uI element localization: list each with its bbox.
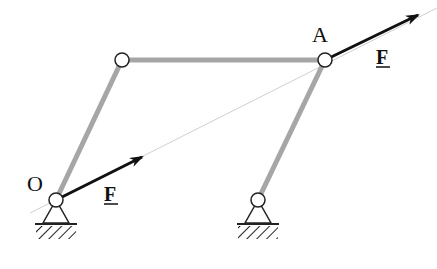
label-o: O [27, 171, 43, 196]
link-o-b [56, 60, 122, 200]
force-arrow-a [325, 15, 418, 60]
joint-b [115, 53, 129, 67]
force-arrow-o [56, 157, 142, 200]
linkage-diagram: O A F F [0, 0, 437, 269]
label-force-a: F [376, 46, 388, 68]
joint-o [49, 193, 63, 207]
joint-a [318, 53, 332, 67]
label-a: A [312, 22, 328, 47]
label-force-o: F [104, 183, 116, 205]
joint-c [251, 193, 265, 207]
